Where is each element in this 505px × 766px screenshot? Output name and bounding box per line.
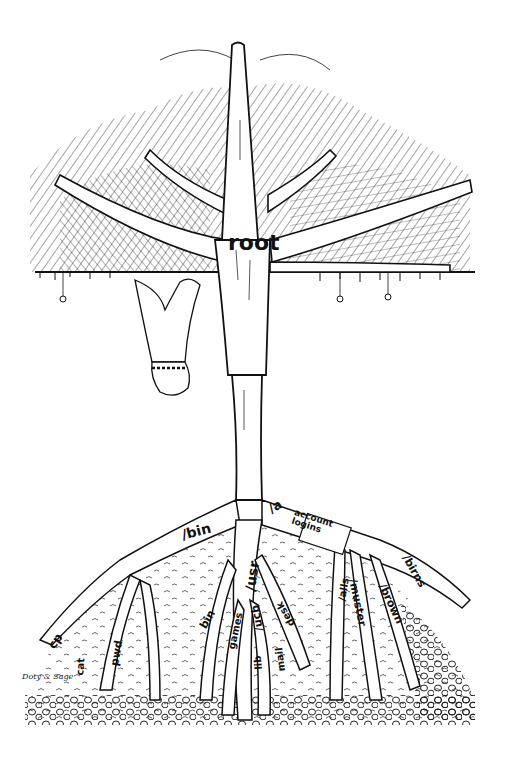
trunk — [215, 240, 270, 500]
root-label: root — [228, 232, 280, 254]
file-system-tree-illustration — [0, 0, 505, 766]
branch-label-lib: lib — [253, 655, 264, 670]
branch-label-cat: cat — [75, 658, 86, 676]
branch-label-usr: /usr — [243, 560, 261, 592]
artist-signature: Doty & Sage — [22, 672, 73, 681]
hand-illustration — [135, 279, 200, 395]
